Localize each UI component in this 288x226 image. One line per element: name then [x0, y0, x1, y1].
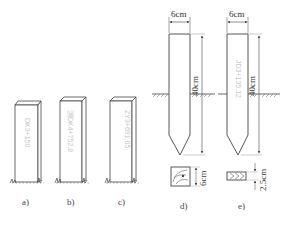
d-height-label: 40cm: [190, 76, 200, 96]
caption-d: d): [180, 201, 188, 211]
caption-b: b): [67, 197, 75, 207]
e-section-label: 2.5cm: [258, 169, 268, 191]
caption-e: e): [238, 201, 245, 211]
d-width-label: 6cm: [171, 9, 187, 19]
caption-c: c): [118, 197, 125, 207]
caption-a: a): [22, 197, 29, 207]
stake-a-text: DK3+150: [24, 118, 31, 147]
stake-a: DK3+150 a): [10, 101, 44, 207]
stake-e-text: JD3+135.12: [235, 60, 242, 98]
stake-c-text: ZY3+691.05: [124, 110, 131, 148]
stake-e: 6cm JD3+135.12 40cm 2.5cm e): [218, 9, 280, 211]
stake-b-text: 测DK4+752.8: [66, 110, 74, 152]
e-width-label: 6cm: [229, 9, 245, 19]
e-height-label: 40cm: [247, 76, 257, 96]
stake-diagram: DK3+150 a) 测DK4+752.8 b) ZY3+691.05 c) 6…: [0, 0, 288, 226]
d-cross-section: [171, 167, 190, 186]
d-section-label: 6cm: [198, 171, 208, 187]
stake-b: 测DK4+752.8 b): [55, 97, 90, 207]
stake-d: 6cm 40cm 6cm d): [152, 9, 215, 211]
stake-c: ZY3+691.05 c): [105, 97, 140, 207]
